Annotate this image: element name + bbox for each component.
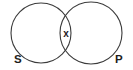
- circle-p: [60, 2, 122, 64]
- venn-diagram: S P x: [0, 0, 133, 70]
- venn-diagram-canvas: S P x: [0, 0, 133, 70]
- label-s: S: [14, 53, 22, 65]
- label-p: P: [115, 53, 123, 65]
- intersection-x-mark: x: [63, 28, 69, 39]
